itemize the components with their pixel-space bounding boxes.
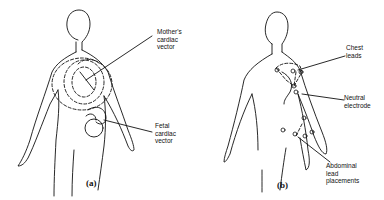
- body-outline-a: [18, 10, 134, 196]
- label-mother-cardiac-vector: Mother's cardiac vector: [157, 28, 182, 51]
- label-abdominal-lead-placements: Abdominal lead placements: [326, 162, 359, 185]
- pointer-mother-vector: [86, 36, 152, 80]
- electrodes: [275, 68, 314, 138]
- label-chest-leads: Chest leads: [346, 44, 363, 59]
- pointer-neutral-electrode: [302, 94, 344, 100]
- pointer-chest-leads: [298, 56, 345, 70]
- body-outline-b: [224, 12, 327, 192]
- caption-a: (a): [86, 178, 97, 188]
- chest-leads-outline: [276, 63, 302, 136]
- fetus: [85, 107, 106, 137]
- caption-b: (b): [277, 180, 288, 190]
- label-fetal-cardiac-vector: Fetal cardiac vector: [155, 122, 176, 145]
- label-neutral-electrode: Neutral electrode: [344, 94, 371, 109]
